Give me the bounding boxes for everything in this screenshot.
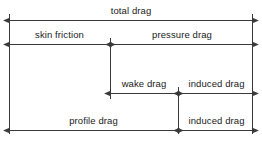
label-total-drag: total drag: [9, 5, 253, 16]
label-wake-drag: wake drag: [110, 78, 178, 89]
label-pressure-drag: pressure drag: [111, 29, 253, 40]
label-skin-friction: skin friction: [9, 29, 110, 40]
label-induced-drag-upper: induced drag: [180, 78, 253, 89]
label-profile-drag: profile drag: [9, 115, 178, 126]
label-induced-drag-lower: induced drag: [180, 115, 253, 126]
drag-breakdown-diagram: total drag skin friction pressure drag w…: [0, 0, 262, 146]
